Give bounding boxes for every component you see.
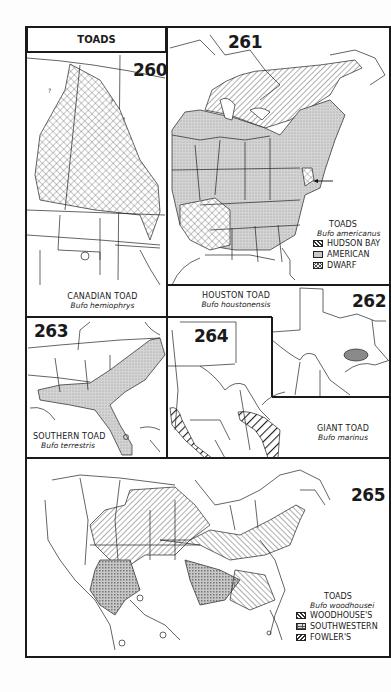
legend-label: FOWLER'S — [310, 633, 351, 642]
legend-label: DWARF — [327, 261, 356, 270]
map-number-265: 265 — [351, 485, 385, 505]
caption-260: CANADIAN TOAD Bufo hemiophrys — [60, 292, 145, 310]
hatch-swatch-icon — [296, 612, 306, 619]
common-name-264: GIANT TOAD — [308, 424, 378, 433]
legend-261-scientific: Bufo americanus — [313, 229, 380, 238]
reverse-hatch-swatch-icon — [296, 634, 306, 641]
scientific-name-263: Bufo terrestris — [33, 441, 103, 450]
grid-swatch-icon — [296, 623, 306, 630]
legend-item-fowlers: FOWLER'S — [296, 632, 378, 643]
map-number-260: 260 — [133, 60, 167, 80]
caption-263: SOUTHERN TOAD Bufo terrestris — [33, 432, 103, 450]
map-number-264: 264 — [194, 326, 228, 346]
legend-item-woodhouses: WOODHOUSE'S — [296, 610, 378, 621]
legend-265: TOADS Bufo woodhousei WOODHOUSE'S SOUTHW… — [296, 592, 378, 643]
legend-label: AMERICAN — [327, 250, 369, 259]
svg-text:?: ? — [48, 87, 51, 94]
legend-item-hudson-bay: HUDSON BAY — [313, 238, 380, 249]
hatch-swatch-icon — [313, 240, 323, 247]
legend-label: HUDSON BAY — [327, 239, 380, 248]
scientific-name-260: Bufo hemiophrys — [60, 301, 145, 310]
field-guide-page: ? ? ? — [0, 0, 391, 692]
stipple-swatch-icon — [313, 251, 323, 258]
common-name-262: HOUSTON TOAD — [196, 291, 276, 300]
range-maps-canvas: ? ? ? — [0, 0, 391, 692]
legend-265-scientific: Bufo woodhousei — [296, 601, 378, 610]
svg-text:?: ? — [122, 116, 125, 123]
common-name-260: CANADIAN TOAD — [60, 292, 145, 301]
crosshatch-swatch-icon — [313, 262, 323, 269]
legend-item-dwarf: DWARF — [313, 260, 380, 271]
page-title: TOADS — [26, 26, 167, 53]
legend-item-southwestern: SOUTHWESTERN — [296, 621, 378, 632]
legend-label: SOUTHWESTERN — [310, 622, 378, 631]
legend-label: WOODHOUSE'S — [310, 611, 372, 620]
map-number-263: 263 — [34, 321, 68, 341]
scientific-name-262: Bufo houstonensis — [196, 300, 276, 309]
map-number-261: 261 — [228, 32, 262, 52]
map-265 — [45, 470, 330, 650]
caption-262: HOUSTON TOAD Bufo houstonensis — [196, 291, 276, 309]
legend-261-title: TOADS — [313, 220, 380, 229]
legend-item-american: AMERICAN — [313, 249, 380, 260]
caption-264: GIANT TOAD Bufo marinus — [308, 424, 378, 442]
legend-265-title: TOADS — [296, 592, 378, 601]
legend-261: TOADS Bufo americanus HUDSON BAY AMERICA… — [313, 220, 380, 271]
map-260: ? ? ? — [27, 55, 165, 285]
svg-text:?: ? — [110, 98, 113, 105]
common-name-263: SOUTHERN TOAD — [33, 432, 103, 441]
map-number-262: 262 — [352, 291, 386, 311]
scientific-name-264: Bufo marinus — [308, 433, 378, 442]
